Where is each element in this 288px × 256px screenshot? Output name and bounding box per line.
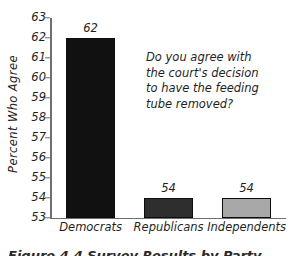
y-axis-tick-mark: [45, 97, 50, 98]
x-axis-category-label: Republicans: [134, 220, 204, 234]
bar-rect: [222, 198, 270, 218]
x-axis-category-label: Democrats: [59, 220, 122, 234]
y-axis-tick-mark: [45, 137, 50, 138]
y-axis-title-text: Percent Who Agree: [6, 55, 20, 173]
bar-value-label: 54: [144, 181, 192, 195]
bar-value-label: 54: [222, 181, 270, 195]
y-axis-tick-label: 57: [31, 132, 46, 144]
y-axis-tick-labels: 5354555657585960616263: [24, 18, 46, 218]
y-axis-tick-mark: [45, 157, 50, 158]
bar-value-label: 62: [66, 21, 114, 35]
plot-area: 625454: [52, 18, 286, 218]
x-axis-category-label: Independents: [207, 220, 286, 234]
question-annotation: Do you agree withthe court's decisionto …: [146, 50, 278, 112]
y-axis-tick-mark: [45, 57, 50, 58]
x-axis-category-labels: DemocratsRepublicansIndependents: [52, 220, 286, 238]
y-axis-tick-label: 58: [31, 112, 46, 124]
y-axis-tick-mark: [45, 17, 50, 18]
annotation-line: the court's decision: [146, 66, 278, 82]
bar-independents[interactable]: 54: [222, 18, 270, 218]
y-axis-tick-mark: [45, 177, 50, 178]
y-axis-tick-label: 61: [31, 52, 46, 64]
y-axis-tick-label: 60: [31, 72, 46, 84]
bar-rect: [66, 38, 114, 218]
y-axis-tick-label: 56: [31, 152, 46, 164]
annotation-line: to have the feeding: [146, 81, 278, 97]
y-axis-tick-label: 53: [31, 212, 46, 224]
y-axis-title: Percent Who Agree: [0, 0, 26, 228]
y-axis-tick-label: 54: [31, 192, 46, 204]
bar-republicans[interactable]: 54: [144, 18, 192, 218]
bar-chart-figure: Percent Who Agree 5354555657585960616263…: [0, 0, 288, 256]
y-axis-tick-mark: [45, 197, 50, 198]
y-axis-tick-mark: [45, 37, 50, 38]
bar-rect: [144, 198, 192, 218]
annotation-line: Do you agree with: [146, 50, 278, 66]
y-axis-tick-mark: [45, 117, 50, 118]
y-axis-tick-mark: [45, 77, 50, 78]
y-axis-tick-label: 55: [31, 172, 46, 184]
figure-caption: Figure 4.4 Survey Results by Party: [8, 249, 288, 256]
bar-democrats[interactable]: 62: [66, 18, 114, 218]
y-axis-tick-label: 62: [31, 32, 46, 44]
y-axis-tick-label: 63: [31, 12, 46, 24]
y-axis-tick-label: 59: [31, 92, 46, 104]
annotation-line: tube removed?: [146, 97, 278, 113]
y-axis-tick-mark: [45, 217, 50, 218]
